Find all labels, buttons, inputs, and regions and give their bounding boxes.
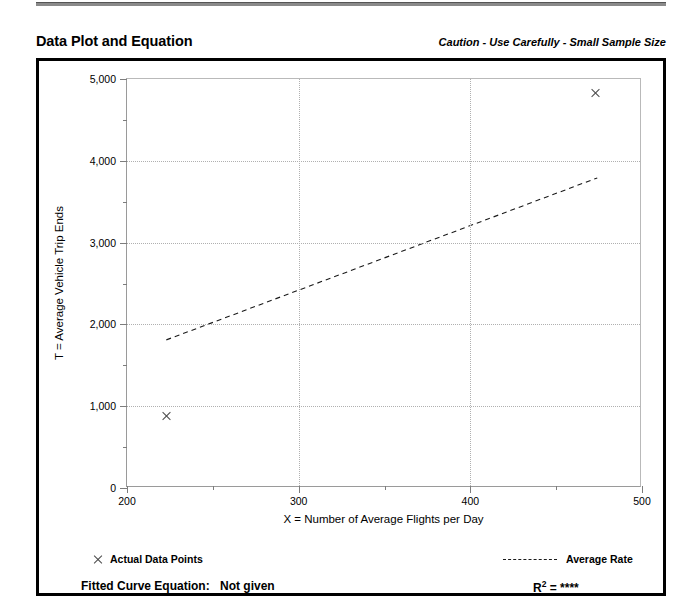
r-squared-exponent: 2 — [542, 579, 547, 589]
x-axis-minor-tick — [213, 486, 214, 490]
plot-area: 01,0002,0003,0004,0005,000200300400500 — [126, 78, 641, 487]
y-axis-tick-label: 5,000 — [90, 73, 116, 85]
page-title: Data Plot and Equation — [36, 33, 193, 49]
y-axis-minor-tick — [123, 202, 127, 203]
chart-footer: Fitted Curve Equation: Not given R2 = **… — [39, 576, 663, 600]
y-axis-minor-tick — [123, 284, 127, 285]
x-axis-tick — [299, 486, 300, 493]
y-axis-tick-label: 3,000 — [90, 237, 116, 249]
y-axis-minor-tick — [123, 120, 127, 121]
gridline-horizontal — [127, 324, 640, 325]
x-axis-tick — [470, 486, 471, 493]
gridline-horizontal — [127, 406, 640, 407]
x-axis-tick — [642, 486, 643, 493]
y-axis-tick — [120, 243, 127, 244]
y-axis-tick — [120, 324, 127, 325]
y-axis-minor-tick — [123, 365, 127, 366]
data-point-marker — [161, 411, 172, 422]
fitted-curve-equation: Fitted Curve Equation: Not given — [81, 579, 275, 593]
x-axis-tick-label: 300 — [290, 495, 308, 507]
r-squared-number: = **** — [550, 581, 579, 595]
y-axis-tick-label: 2,000 — [90, 318, 116, 330]
chart-frame: T = Average Vehicle Trip Ends 01,0002,00… — [36, 58, 666, 596]
legend-label-actual-data-points: Actual Data Points — [110, 553, 203, 565]
fitted-curve-equation-label: Fitted Curve Equation: — [81, 579, 210, 593]
y-axis-tick-label: 1,000 — [90, 400, 116, 412]
gridline-vertical — [299, 79, 300, 486]
x-axis-minor-tick — [556, 486, 557, 490]
data-point-marker — [590, 88, 601, 99]
dashed-line-icon — [503, 559, 557, 560]
page-top-divider — [36, 2, 666, 6]
y-axis-tick — [120, 406, 127, 407]
y-axis-tick — [120, 161, 127, 162]
gridline-horizontal — [127, 243, 640, 244]
chart-legend: Actual Data Points Average Rate — [39, 548, 663, 572]
y-axis-title-text: T = Average Vehicle Trip Ends — [53, 206, 65, 360]
x-axis-tick-label: 400 — [462, 495, 480, 507]
r-squared-value: R2 = **** — [533, 579, 579, 595]
y-axis-minor-tick — [123, 447, 127, 448]
y-axis-title: T = Average Vehicle Trip Ends — [51, 78, 67, 487]
gridline-horizontal — [127, 161, 640, 162]
gridline-vertical — [470, 79, 471, 486]
x-axis-tick-label: 500 — [633, 495, 651, 507]
x-axis-tick-label: 200 — [118, 495, 136, 507]
average-rate-trendline — [166, 178, 597, 340]
x-axis-title: X = Number of Average Flights per Day — [126, 513, 641, 525]
fitted-curve-equation-value: Not given — [220, 579, 275, 593]
r-squared-symbol: R — [533, 581, 542, 595]
x-axis-tick — [127, 486, 128, 493]
y-axis-tick-label: 4,000 — [90, 155, 116, 167]
y-axis-tick-label: 0 — [110, 482, 116, 494]
y-axis-tick — [120, 79, 127, 80]
x-axis-minor-tick — [385, 486, 386, 490]
x-marker-icon — [92, 554, 103, 565]
trendline-svg — [127, 79, 640, 486]
y-axis-tick — [120, 488, 127, 489]
legend-label-average-rate: Average Rate — [566, 553, 633, 565]
caution-note: Caution - Use Carefully - Small Sample S… — [439, 36, 666, 48]
